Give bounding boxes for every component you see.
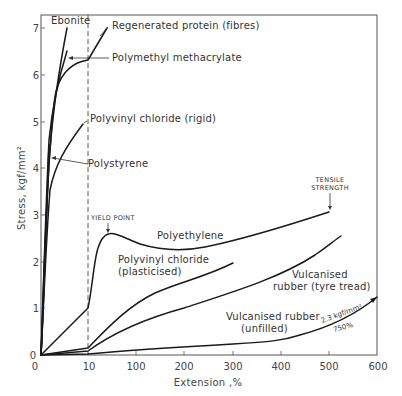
curve-regenerated-protein	[41, 28, 107, 355]
svg-text:400: 400	[271, 361, 290, 372]
label-pvc-plasticised-1: Polyvinyl chloride	[118, 254, 209, 265]
label-tensile-strength-1: TENSILE	[315, 176, 345, 184]
leader-protein	[100, 27, 108, 36]
svg-text:600: 600	[368, 361, 387, 372]
svg-text:7: 7	[33, 23, 39, 34]
svg-text:200: 200	[174, 361, 193, 372]
svg-text:500: 500	[319, 361, 338, 372]
x-axis-title: Extension ,%	[174, 377, 243, 388]
label-rubber-unfilled-1: Vulcanised rubber	[226, 311, 320, 322]
svg-text:4: 4	[33, 163, 39, 174]
curve-ebonite	[41, 28, 67, 355]
y-tick-labels: 0 1 2 3 4 5 6 7	[30, 23, 39, 361]
svg-text:10: 10	[83, 361, 96, 372]
label-pvc-rigid: Polyvinyl chloride (rigid)	[90, 113, 216, 124]
x-tick-labels: 0 10 100 200 300 400 500 600	[32, 361, 388, 372]
svg-text:5: 5	[33, 117, 39, 128]
leader-pvc-rigid	[84, 121, 87, 123]
tensile-arrow-icon	[328, 206, 332, 210]
label-yield-point: YIELD POINT	[90, 214, 135, 222]
yield-arrow-icon	[106, 229, 110, 233]
label-rubber-tyre-1: Vulcanised	[292, 269, 348, 280]
polystyrene-arrow-icon	[51, 156, 56, 160]
svg-text:3: 3	[33, 210, 39, 221]
label-polymethyl-methacrylate: Polymethyl methacrylate	[112, 52, 242, 63]
curve-rubber-unfilled	[41, 297, 377, 355]
svg-text:2: 2	[33, 257, 39, 268]
pmma-arrow-icon	[68, 56, 73, 60]
x-axis	[136, 351, 329, 355]
svg-text:0: 0	[32, 361, 38, 372]
svg-text:300: 300	[223, 361, 242, 372]
label-rubber-tyre-2: rubber (tyre tread)	[273, 281, 371, 292]
y-axis-title: Stress, kgf/mm²	[16, 146, 27, 230]
label-polyethylene: Polyethylene	[157, 230, 224, 241]
svg-text:100: 100	[126, 361, 145, 372]
svg-text:1: 1	[33, 303, 39, 314]
svg-text:0: 0	[30, 350, 36, 361]
label-polystyrene: Polystyrene	[88, 158, 148, 169]
svg-text:6: 6	[33, 70, 39, 81]
label-ebonite: Ebonite	[51, 15, 90, 26]
label-pvc-plasticised-2: (plasticised)	[118, 266, 182, 277]
stress-extension-chart: 0 1 2 3 4 5 6 7 0 10 100 200 300 400 500…	[0, 0, 402, 396]
label-rubber-unfilled-2: (unfilled)	[241, 323, 288, 334]
label-rubber-break-stress: 2.3 kgf/mm²	[320, 303, 363, 325]
curve-polymethyl-methacrylate	[41, 51, 67, 355]
label-regenerated-protein: Regenerated protein (fibres)	[112, 20, 260, 31]
label-tensile-strength-2: STRENGTH	[311, 184, 349, 192]
